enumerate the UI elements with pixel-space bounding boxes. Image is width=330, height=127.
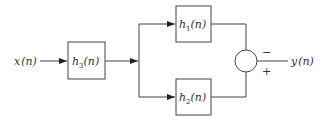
block-h2: h2(n)	[176, 79, 211, 115]
block-h3: h3(n)	[68, 42, 105, 79]
output-label: y(n)	[290, 55, 314, 68]
svg-text:h1(n): h1(n)	[179, 18, 206, 33]
block-diagram: x(n) h3(n) h1(n) h2(n) − + y(n)	[0, 0, 330, 127]
svg-text:h3(n): h3(n)	[72, 55, 99, 70]
plus-sign: +	[262, 65, 271, 78]
input-label: x(n)	[14, 55, 37, 68]
minus-sign: −	[262, 46, 271, 59]
h1-to-summer-line	[211, 24, 246, 50]
svg-text:h2(n): h2(n)	[179, 91, 206, 106]
h2-to-summer-line	[211, 72, 246, 97]
svg-text:y(n): y(n)	[290, 55, 314, 68]
block-h1: h1(n)	[176, 6, 211, 42]
svg-text:x(n): x(n)	[14, 55, 37, 68]
summing-junction	[235, 50, 257, 72]
